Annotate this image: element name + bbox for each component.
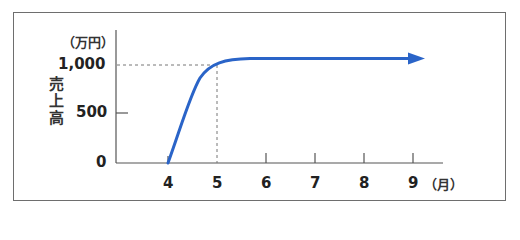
y-title-char-3: 高: [48, 110, 64, 127]
y-tick-label-500: 500: [76, 105, 107, 120]
x-tick-label-6: 6: [261, 176, 271, 191]
y-title-char-2: 上: [48, 93, 64, 110]
x-unit-label: （月）: [424, 178, 463, 191]
y-tick-label-1000: 1,000: [58, 57, 105, 72]
y-unit-label: （万円）: [62, 36, 114, 49]
x-tick-label-7: 7: [310, 176, 320, 191]
sales-curve: [168, 59, 410, 164]
x-tick-label-8: 8: [359, 176, 369, 191]
y-tick-label-0: 0: [96, 155, 106, 170]
x-tick-label-5: 5: [212, 176, 222, 191]
arrow-head-icon: [408, 53, 425, 65]
y-title-char-1: 売: [48, 76, 64, 93]
x-ticks: [168, 153, 413, 163]
x-tick-label-4: 4: [163, 176, 173, 191]
x-tick-label-9: 9: [408, 176, 418, 191]
y-axis-title: 売 上 高: [48, 76, 64, 127]
